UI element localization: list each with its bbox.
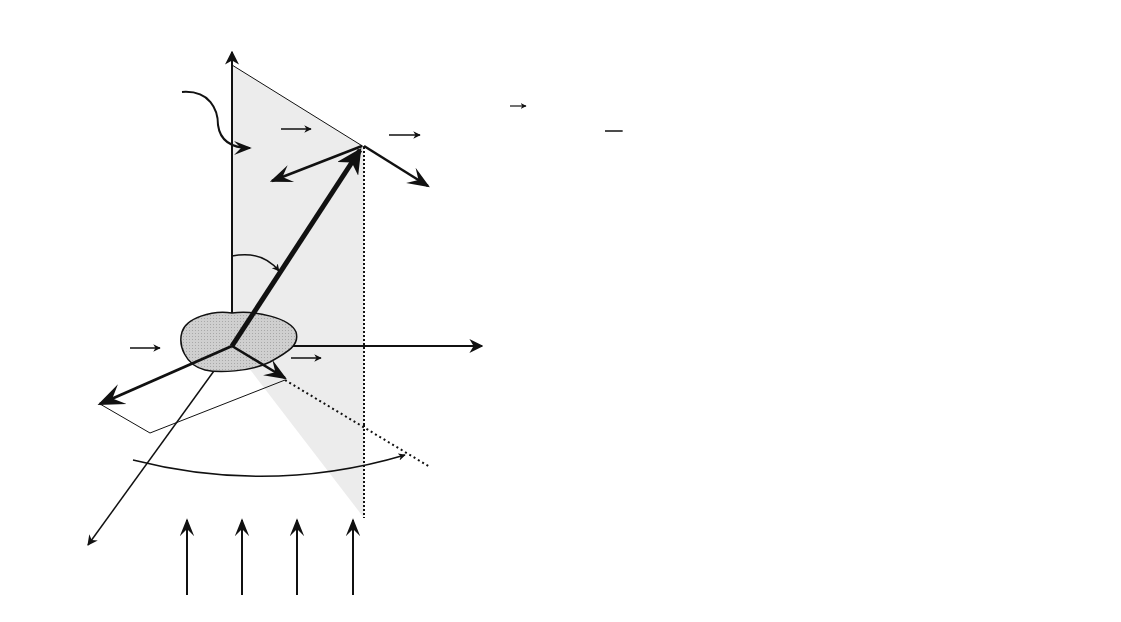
- scattered-wave-equation: [510, 106, 623, 131]
- panel-a: [88, 52, 623, 595]
- incident-wave-arrows: [187, 520, 353, 595]
- scattering-plane: [232, 65, 364, 518]
- e-ls-arrow: [364, 146, 428, 186]
- x-axis: [88, 346, 232, 545]
- e-ri-arrow: [100, 346, 232, 404]
- mie-scattering-diagram: [0, 0, 1121, 622]
- projection-line-1: [100, 404, 150, 433]
- projection-line-2: [150, 380, 285, 433]
